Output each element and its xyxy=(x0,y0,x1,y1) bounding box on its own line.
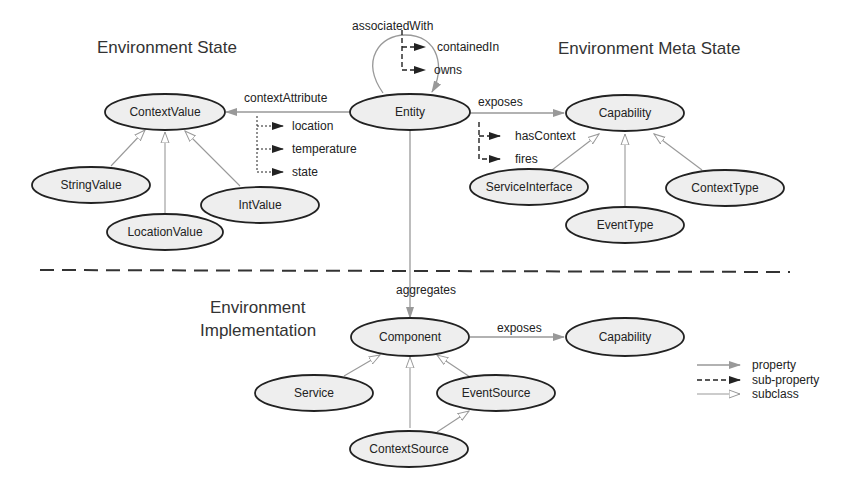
section-environment-implementation-2: Implementation xyxy=(200,321,316,340)
svg-text:LocationValue: LocationValue xyxy=(127,225,202,239)
legend-property-label: property xyxy=(752,358,796,372)
node-context-source[interactable]: ContextSource xyxy=(350,431,468,467)
node-context-type[interactable]: ContextType xyxy=(666,170,784,206)
section-environment-meta-state: Environment Meta State xyxy=(558,39,740,58)
svg-text:Entity: Entity xyxy=(395,105,425,119)
subclass-edge xyxy=(437,411,469,432)
svg-text:Service: Service xyxy=(294,386,334,400)
label-owns: owns xyxy=(434,63,462,77)
legend-sub-property-label: sub-property xyxy=(752,373,819,387)
svg-text:EventSource: EventSource xyxy=(462,386,531,400)
node-int-value[interactable]: IntValue xyxy=(201,187,319,223)
legend-subclass-label: subclass xyxy=(752,387,799,401)
svg-text:ContextType: ContextType xyxy=(691,181,759,195)
node-string-value[interactable]: StringValue xyxy=(32,167,150,203)
label-aggregates: aggregates xyxy=(396,283,456,297)
node-context-value[interactable]: ContextValue xyxy=(105,94,225,130)
node-entity[interactable]: Entity xyxy=(350,94,470,130)
label-fires: fires xyxy=(515,152,538,166)
label-has-context: hasContext xyxy=(515,129,576,143)
svg-text:Component: Component xyxy=(379,330,442,344)
node-location-value[interactable]: LocationValue xyxy=(107,214,223,250)
legend: property sub-property subclass xyxy=(697,358,819,401)
label-exposes-2: exposes xyxy=(497,321,542,335)
label-contained-in: containedIn xyxy=(437,40,499,54)
subclass-edge xyxy=(111,130,145,166)
svg-text:ServiceInterface: ServiceInterface xyxy=(486,180,573,194)
label-exposes: exposes xyxy=(478,95,523,109)
subclass-edge xyxy=(654,134,702,170)
node-event-source[interactable]: EventSource xyxy=(437,375,555,411)
subclass-edge xyxy=(185,131,240,186)
section-divider xyxy=(40,270,790,272)
section-environment-state: Environment State xyxy=(97,38,237,57)
svg-text:IntValue: IntValue xyxy=(238,198,281,212)
subprop-state-edge xyxy=(257,116,283,172)
label-associated-with: associatedWith xyxy=(352,19,433,33)
node-service-interface[interactable]: ServiceInterface xyxy=(470,169,588,205)
node-capability-2[interactable]: Capability xyxy=(566,318,684,356)
node-event-type[interactable]: EventType xyxy=(566,207,684,243)
node-component[interactable]: Component xyxy=(351,318,469,356)
svg-text:ContextSource: ContextSource xyxy=(369,442,449,456)
subclass-edge xyxy=(344,355,380,376)
svg-text:EventType: EventType xyxy=(597,218,654,232)
svg-text:StringValue: StringValue xyxy=(60,178,121,192)
ontology-diagram: Environment State Environment Meta State… xyxy=(0,0,844,496)
subclass-edge xyxy=(437,355,470,377)
section-environment-implementation-1: Environment xyxy=(210,298,306,317)
svg-text:ContextValue: ContextValue xyxy=(129,105,200,119)
svg-text:Capability: Capability xyxy=(599,330,652,344)
associated-with-edge xyxy=(373,35,439,93)
label-location: location xyxy=(292,119,333,133)
subprop-fires-edge xyxy=(479,122,500,159)
label-context-attribute: contextAttribute xyxy=(244,91,328,105)
svg-text:Capability: Capability xyxy=(599,106,652,120)
label-temperature: temperature xyxy=(292,142,357,156)
node-service[interactable]: Service xyxy=(255,375,373,411)
node-capability[interactable]: Capability xyxy=(566,95,684,131)
label-state: state xyxy=(292,165,318,179)
